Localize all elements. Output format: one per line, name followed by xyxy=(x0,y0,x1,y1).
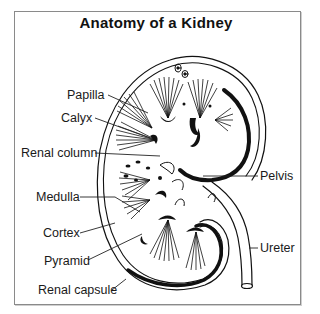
label-pelvis: Pelvis xyxy=(260,169,293,183)
label-renal-capsule: Renal capsule xyxy=(38,283,117,297)
label-calyx: Calyx xyxy=(61,111,92,125)
minor-calyx-outlines xyxy=(160,162,215,206)
label-renal-column: Renal column xyxy=(21,146,97,160)
pyramids xyxy=(116,77,233,270)
label-ureter: Ureter xyxy=(260,241,295,255)
label-papilla: Papilla xyxy=(67,88,105,102)
label-pyramid: Pyramid xyxy=(44,254,90,268)
label-medulla: Medulla xyxy=(36,190,80,204)
label-cortex: Cortex xyxy=(43,226,80,240)
